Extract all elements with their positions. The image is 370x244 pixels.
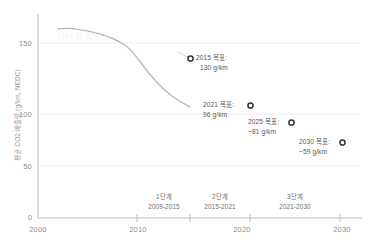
x-tick-label-2020: 2020: [222, 225, 262, 234]
marker-2025-target: [289, 120, 294, 125]
marker-2015-target: [188, 56, 193, 61]
annotation-2015-value: 130 g/km: [196, 63, 228, 73]
phase-label-3: 3단계 2021-2030: [264, 192, 326, 212]
phase-3-range: 2021-2030: [264, 202, 326, 212]
annotation-2030-target: 2030 목표: ~59 g/km: [299, 137, 330, 157]
phase-2-range: 2015-2021: [189, 202, 251, 212]
phase-3-name: 3단계: [287, 193, 303, 200]
annotation-2025-value: ~81 g/km: [248, 127, 279, 137]
annotation-2030-label: 2030 목표:: [299, 138, 330, 145]
y-tick-label-50: 50: [6, 162, 32, 171]
marker-2021-target: [248, 103, 253, 108]
annotation-2025-label: 2025 목표:: [248, 118, 279, 125]
y-tick-label-100: 100: [6, 110, 32, 119]
annotation-2021-target: 2021 목표: 96 g/km: [203, 100, 234, 120]
y-tick-label-150: 150: [6, 39, 32, 48]
phase-label-2: 2단계 2015-2021: [189, 192, 251, 212]
phase-label-1: 1단계 2009-2015: [133, 192, 195, 212]
x-tick-label-2010: 2010: [118, 225, 158, 234]
phase-2-name: 2단계: [212, 193, 228, 200]
chart-container: 다나와자동차 평균 CO2 배출량 (g/km, NEDC) 150 100 5…: [0, 0, 370, 244]
marker-2030-target: [340, 140, 345, 145]
leader-line-2015: [178, 52, 189, 58]
watermark: 다나와자동차: [57, 29, 112, 41]
annotation-2025-target: 2025 목표: ~81 g/km: [248, 117, 279, 137]
x-tick-label-2000: 2000: [18, 225, 58, 234]
x-tick-label-2030: 2030: [322, 225, 362, 234]
annotation-2015-label: 2015 목표:: [196, 54, 227, 61]
annotation-2015-target: 2015 목표: 130 g/km: [196, 53, 228, 73]
annotation-2021-label: 2021 목표:: [203, 101, 234, 108]
annotation-2021-value: 96 g/km: [203, 110, 234, 120]
phase-1-range: 2009-2015: [133, 202, 195, 212]
annotation-2030-value: ~59 g/km: [299, 147, 330, 157]
phase-1-name: 1단계: [156, 193, 172, 200]
y-tick-label-0: 0: [6, 213, 32, 222]
